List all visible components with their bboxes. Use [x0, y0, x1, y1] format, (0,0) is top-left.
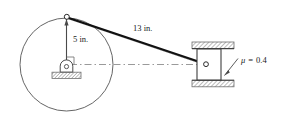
slider-block [197, 49, 221, 80]
guide-rail-bottom [192, 80, 234, 87]
crank-arrowhead [64, 19, 68, 26]
figure-canvas: 5 in. 13 in. μ=0.4 [0, 0, 283, 127]
mu-equals: = [248, 55, 253, 65]
crank-radius-label: 5 in. [73, 34, 88, 44]
slider-pin [204, 62, 209, 67]
friction-coefficient-label: μ=0.4 [240, 55, 267, 65]
mu-symbol: μ [240, 55, 245, 65]
guide-rail-top [192, 42, 234, 49]
friction-leader-arrowhead [225, 70, 230, 75]
mechanism-figure: 5 in. 13 in. μ=0.4 [0, 0, 283, 127]
rod-length-label: 13 in. [133, 23, 152, 33]
mu-value: 0.4 [256, 55, 267, 65]
crank-pin [64, 14, 69, 19]
ground-hatching [52, 72, 81, 78]
hub-pin [64, 65, 68, 69]
